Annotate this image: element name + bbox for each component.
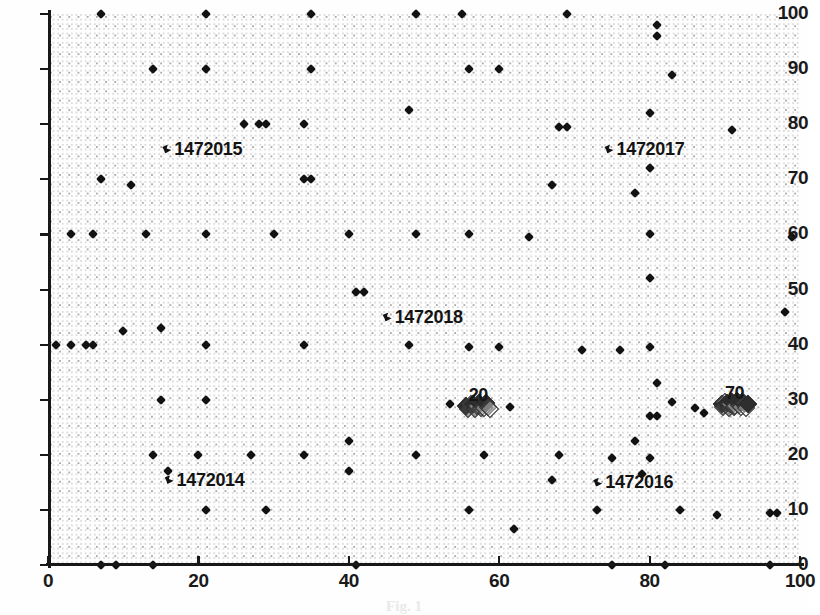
annotation-marker-icon [383, 313, 392, 322]
figure-caption: Fig. 1 [0, 598, 808, 614]
annotation-label: 1472018 [395, 307, 463, 328]
y-tick-label: 70 [770, 167, 808, 189]
plot-grid-area [48, 14, 800, 565]
cluster-label: 70 [725, 383, 744, 404]
y-tick-label: 30 [770, 388, 808, 410]
y-tick-label: 90 [770, 57, 808, 79]
x-tick [47, 556, 49, 565]
x-tick-label: 20 [168, 570, 228, 592]
y-tick-label: 10 [770, 498, 808, 520]
x-axis-line [46, 563, 804, 566]
y-tick-label: 100 [770, 2, 808, 24]
y-tick-label: 60 [770, 222, 808, 244]
annotation-label: 1472014 [177, 469, 245, 490]
y-tick [40, 399, 49, 401]
y-tick [40, 13, 49, 15]
x-tick [498, 556, 500, 565]
y-tick-label: 80 [770, 112, 808, 134]
y-tick [40, 344, 49, 346]
x-tick-label: 100 [770, 570, 820, 592]
annotation-marker-icon [593, 478, 602, 487]
annotation-label: 1472017 [616, 138, 684, 159]
y-tick [40, 178, 49, 180]
point-annotation: 1472015 [162, 138, 242, 159]
y-tick [40, 68, 49, 70]
point-annotation: 1472018 [383, 307, 463, 328]
annotation-label: 1472015 [174, 138, 242, 159]
x-tick [348, 556, 350, 565]
annotation-marker-icon [162, 144, 171, 153]
annotation-label: 1472016 [605, 472, 673, 493]
x-tick-label: 60 [469, 570, 529, 592]
cluster-label: 20 [469, 385, 488, 406]
annotation-marker-icon [604, 144, 613, 153]
y-tick [40, 509, 49, 511]
x-tick-label: 80 [620, 570, 680, 592]
x-tick-label: 40 [319, 570, 379, 592]
x-tick-label: 0 [18, 570, 78, 592]
point-annotation: 1472014 [165, 469, 245, 490]
plot-frame: 2070 14720151472017147201814720141472016 [48, 14, 800, 565]
point-annotation: 1472017 [604, 138, 684, 159]
x-tick [649, 556, 651, 565]
y-tick [40, 233, 49, 235]
y-tick [40, 289, 49, 291]
annotation-marker-icon [165, 475, 174, 484]
x-tick [197, 556, 199, 565]
y-tick [40, 123, 49, 125]
point-annotation: 1472016 [593, 472, 673, 493]
y-tick-label: 40 [770, 333, 808, 355]
y-tick-label: 50 [770, 278, 808, 300]
y-tick [40, 454, 49, 456]
y-tick-label: 20 [770, 443, 808, 465]
